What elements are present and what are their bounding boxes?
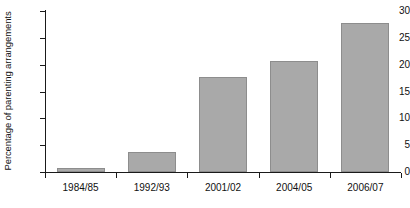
y-tick-mark bbox=[40, 92, 45, 93]
bar bbox=[57, 168, 105, 172]
x-tick-label: 1992/93 bbox=[116, 182, 187, 194]
y-axis-title: Percentage of parenting arrangements bbox=[1, 5, 14, 177]
y-axis-line bbox=[45, 10, 46, 173]
y-tick-label: 30 bbox=[372, 6, 410, 16]
bar bbox=[199, 77, 247, 172]
x-tick-mark bbox=[259, 173, 260, 178]
x-tick-mark bbox=[330, 173, 331, 178]
x-tick-label: 1984/85 bbox=[45, 182, 116, 194]
x-tick-mark bbox=[116, 173, 117, 178]
x-tick-label: 2004/05 bbox=[259, 182, 330, 194]
x-tick-mark bbox=[187, 173, 188, 178]
y-tick-mark bbox=[40, 118, 45, 119]
x-tick-mark bbox=[45, 173, 46, 178]
x-tick-label: 2001/02 bbox=[187, 182, 258, 194]
y-tick-mark bbox=[40, 11, 45, 12]
bar bbox=[341, 23, 389, 172]
x-axis-line bbox=[45, 172, 401, 173]
x-tick-label: 2006/07 bbox=[330, 182, 401, 194]
x-tick-mark bbox=[401, 173, 402, 178]
bar bbox=[128, 152, 176, 172]
y-tick-mark bbox=[40, 38, 45, 39]
bar-chart: Percentage of parenting arrangements 051… bbox=[0, 0, 410, 208]
bar bbox=[270, 61, 318, 172]
y-tick-mark bbox=[40, 145, 45, 146]
y-tick-mark bbox=[40, 65, 45, 66]
